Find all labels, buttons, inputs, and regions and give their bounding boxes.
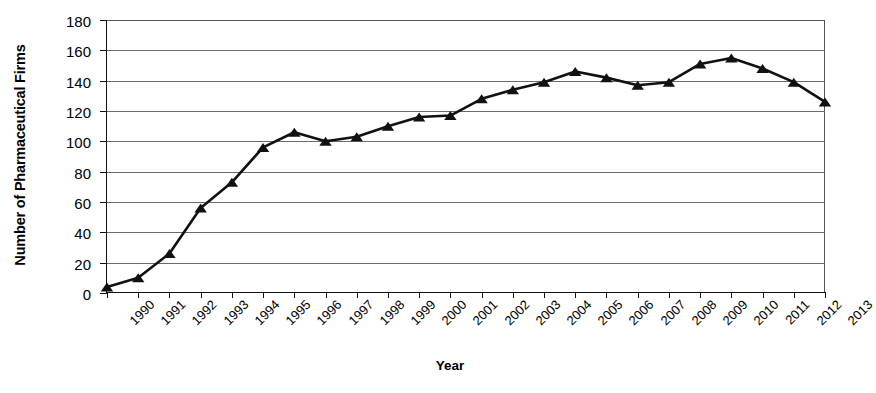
x-axis-tick-label: 1997: [345, 297, 376, 328]
y-axis-tick: 120: [100, 111, 107, 112]
plot-area: 020406080100120140160180: [106, 20, 825, 293]
y-axis-tick-label: 40: [74, 225, 91, 242]
x-axis-tick-label: 1996: [314, 297, 345, 328]
x-axis-tick-label: 1992: [189, 297, 220, 328]
y-axis-tick-label: 140: [66, 73, 91, 90]
y-axis-tick: 160: [100, 50, 107, 51]
x-axis-tick-label: 2010: [751, 297, 782, 328]
y-axis-title: Number of Pharmaceutical Firms: [6, 5, 34, 305]
x-axis-title: Year: [0, 358, 840, 373]
y-axis-tick: 60: [100, 202, 107, 203]
x-axis-tick-label: 1994: [251, 297, 282, 328]
y-axis-tick-label: 80: [74, 164, 91, 181]
x-axis-tick-label: 2000: [439, 297, 470, 328]
y-axis-tick: 40: [100, 232, 107, 233]
x-axis-tick-label: 1991: [158, 297, 189, 328]
x-axis-tick-label: 2003: [532, 297, 563, 328]
x-axis-tick-label: 2013: [844, 297, 875, 328]
y-axis-tick-label: 0: [83, 286, 91, 303]
y-axis-tick: 80: [100, 172, 107, 173]
x-axis-tick-label: 2004: [564, 297, 595, 328]
x-axis-tick-label: 2001: [470, 297, 501, 328]
x-axis-tick-label: 1995: [283, 297, 314, 328]
y-axis-tick: 0: [100, 293, 107, 294]
x-axis-tick-label: 2008: [688, 297, 719, 328]
x-axis-tick-label: 2011: [782, 297, 812, 327]
y-axis-tick-label: 180: [66, 13, 91, 30]
y-axis-tick: 100: [100, 141, 107, 142]
y-axis-tick: 20: [100, 263, 107, 264]
series-line: [107, 58, 825, 287]
data-point-marker: [756, 64, 768, 73]
x-axis-tick-label: 2006: [626, 297, 657, 328]
x-axis-tick-label: 2005: [595, 297, 626, 328]
y-axis-tick-label: 100: [66, 134, 91, 151]
y-axis-tick-label: 160: [66, 43, 91, 60]
x-axis-tick-label: 1993: [220, 297, 251, 328]
plot-wrapper: 020406080100120140160180: [106, 20, 825, 293]
x-axis-tick-label: 2007: [657, 297, 688, 328]
data-point-marker: [163, 249, 175, 258]
x-axis-tick-label: 1999: [407, 297, 438, 328]
x-axis-tick-label: 2002: [501, 297, 532, 328]
y-axis-tick: 180: [100, 20, 107, 21]
x-axis-tick-label: 1990: [126, 297, 157, 328]
x-axis-tick-label: 1998: [376, 297, 407, 328]
y-axis-tick-label: 120: [66, 104, 91, 121]
y-axis-tick-label: 60: [74, 195, 91, 212]
x-axis-tick-label: 2009: [720, 297, 751, 328]
x-axis-tick-label: 2012: [813, 297, 844, 328]
y-axis-tick-label: 20: [74, 255, 91, 272]
y-axis-tick: 140: [100, 81, 107, 82]
data-series-group: [107, 20, 826, 293]
x-axis-labels-group: 1990199119921993199419951996199719981999…: [106, 297, 825, 355]
